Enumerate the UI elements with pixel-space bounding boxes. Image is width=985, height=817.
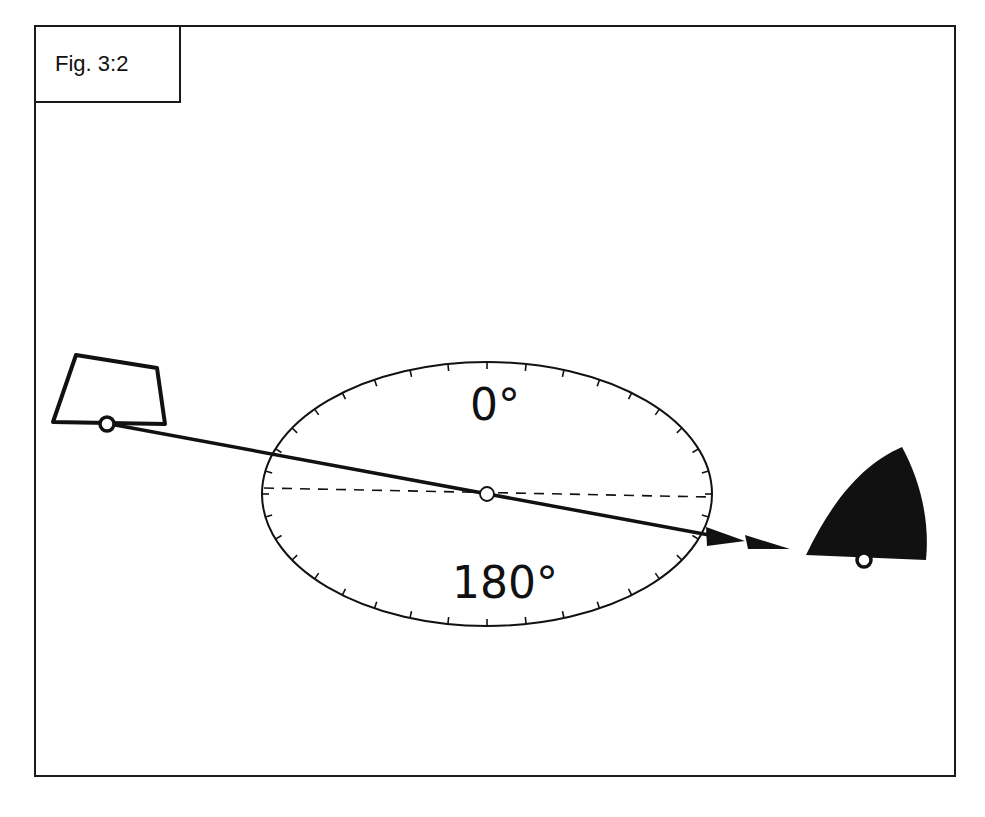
- dial-tick: [342, 393, 345, 399]
- dial-tick: [677, 555, 682, 560]
- left-pivot-icon: [100, 417, 114, 431]
- dial-tick: [692, 449, 698, 453]
- dial-tick: [597, 380, 599, 387]
- arrow-shaft: [110, 424, 720, 537]
- arrow-head-2: [745, 535, 790, 549]
- dial-tick: [410, 370, 411, 377]
- dial-tick: [702, 515, 709, 517]
- dial-tick: [629, 393, 632, 399]
- dial-tick: [265, 471, 272, 473]
- dial-tick: [265, 515, 272, 517]
- dial-tick: [448, 617, 449, 624]
- dial-tick: [692, 535, 698, 539]
- right-filled-shape: [806, 447, 927, 560]
- left-object: [53, 355, 165, 424]
- dial-tick: [562, 611, 563, 618]
- dial-tick: [375, 380, 377, 387]
- center-pivot-icon: [480, 487, 494, 501]
- dial-tick: [677, 428, 682, 433]
- dial-tick: [562, 370, 563, 377]
- dial-tick: [525, 364, 526, 371]
- dial-tick: [448, 364, 449, 371]
- dial-tick: [292, 555, 297, 560]
- dial-tick: [315, 409, 319, 415]
- arrow-head-1: [706, 527, 745, 546]
- dial-tick: [629, 589, 632, 595]
- dial-tick: [655, 409, 659, 415]
- dial-tick: [525, 617, 526, 624]
- dial-tick: [375, 602, 377, 609]
- right-object: [806, 447, 927, 567]
- direction-arrow: [100, 417, 790, 549]
- dial-tick: [597, 602, 599, 609]
- dial-tick: [702, 471, 709, 473]
- dial-tick: [276, 449, 282, 453]
- dial-tick: [410, 611, 411, 618]
- bottom-degree-label: 180°: [452, 557, 558, 608]
- dial-tick: [292, 428, 297, 433]
- top-degree-label: 0°: [470, 379, 520, 430]
- diagram-canvas: 0° 180°: [0, 0, 985, 817]
- dial-tick: [276, 535, 282, 539]
- dial-tick: [655, 573, 659, 579]
- dial-tick: [315, 573, 319, 579]
- dial-tick: [342, 589, 345, 595]
- left-trapezoid-shape: [53, 355, 165, 424]
- right-pivot-icon: [857, 553, 871, 567]
